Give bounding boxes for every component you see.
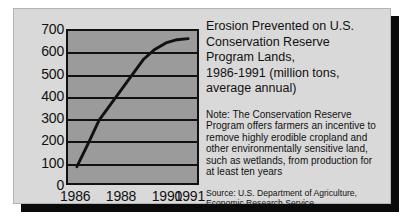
- y-axis-tick-labels: 0100200300400500600700: [14, 29, 64, 185]
- gridline: [68, 164, 197, 166]
- chart-note: Note: The Conservation Reserve Program o…: [206, 109, 396, 179]
- y-tick-label: 600: [16, 44, 64, 58]
- y-tick-label: 200: [16, 133, 64, 147]
- figure-panel: 0100200300400500600700 1986198819901991 …: [13, 8, 391, 204]
- x-tick-label: 1986: [60, 189, 90, 203]
- chart-figure: 0100200300400500600700 1986198819901991 …: [0, 0, 405, 222]
- gridline: [68, 52, 197, 54]
- y-tick-label: 100: [16, 156, 64, 170]
- erosion-line: [77, 39, 188, 167]
- gridline: [68, 97, 197, 99]
- gridline: [68, 141, 197, 143]
- y-tick-label: 500: [16, 67, 64, 81]
- chart-text-block: Erosion Prevented on U.S. Conservation R…: [206, 19, 396, 208]
- y-tick-label: 400: [16, 89, 64, 103]
- chart-title: Erosion Prevented on U.S. Conservation R…: [206, 19, 396, 97]
- y-tick-label: 700: [16, 22, 64, 36]
- x-tick-label: 1988: [106, 189, 136, 203]
- chart-source: Source: U.S. Department of Agriculture, …: [206, 188, 396, 208]
- x-axis-tick-labels: 1986198819901991: [14, 187, 200, 207]
- chart-area: 0100200300400500600700 1986198819901991: [14, 13, 200, 205]
- x-tick-label: 1991: [175, 189, 205, 203]
- gridline: [68, 119, 197, 121]
- y-tick-label: 300: [16, 111, 64, 125]
- gridline: [68, 75, 197, 77]
- plot-frame: [66, 29, 199, 185]
